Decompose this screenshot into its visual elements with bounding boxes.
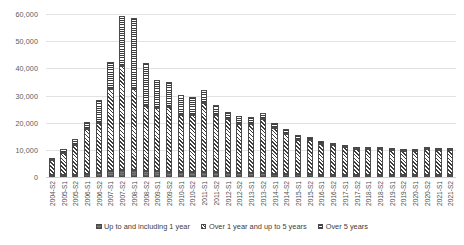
x-axis-tick: 2012-S2 [234, 179, 246, 217]
bar-segment-series-2 [119, 66, 125, 170]
x-axis-tick-label: 2012-S2 [236, 181, 243, 206]
bar-segment-series-1 [236, 173, 242, 177]
bar-column[interactable] [421, 14, 433, 177]
bar-segment-series-2 [178, 115, 184, 172]
bar-segment-series-2 [365, 149, 371, 175]
bar-column[interactable] [245, 14, 257, 177]
bar-column[interactable] [257, 14, 269, 177]
bar-segment-series-2 [435, 150, 441, 175]
bar-stack [213, 105, 219, 177]
bar-column[interactable] [105, 14, 117, 177]
bar-stack [318, 141, 324, 177]
bar-stack [225, 112, 231, 177]
bar-segment-series-1 [283, 174, 289, 177]
bar-segment-series-1 [189, 172, 195, 177]
bar-stack [307, 137, 313, 177]
x-axis-tick-label: 2019-S1 [388, 181, 395, 206]
y-axis-tick-label: 50,000 [15, 37, 38, 46]
bar-segment-series-1 [260, 173, 266, 177]
x-axis-tick-label: 2007-S2 [119, 181, 126, 206]
bar-series-container [46, 14, 456, 177]
bar-stack [178, 95, 184, 177]
bar-column[interactable] [433, 14, 445, 177]
bar-column[interactable] [398, 14, 410, 177]
x-axis-tick-label: 2010-S1 [177, 181, 184, 206]
legend-item[interactable]: Over 5 years [318, 222, 368, 231]
bar-column[interactable] [327, 14, 339, 177]
bar-column[interactable] [339, 14, 351, 177]
bar-column[interactable] [386, 14, 398, 177]
bar-segment-series-1 [353, 175, 359, 177]
bar-stack [143, 63, 149, 177]
bar-stack [400, 149, 406, 177]
bar-column[interactable] [187, 14, 199, 177]
bar-segment-series-1 [271, 174, 277, 177]
bar-segment-series-2 [72, 145, 78, 175]
bar-column[interactable] [58, 14, 70, 177]
x-axis-tick: 2015-S1 [292, 179, 304, 217]
bar-column[interactable] [292, 14, 304, 177]
bar-segment-series-2 [412, 151, 418, 175]
bar-segment-series-3 [166, 82, 172, 108]
bar-segment-series-1 [424, 175, 430, 177]
bar-stack [435, 148, 441, 177]
x-axis-tick: 2018-S2 [374, 179, 386, 217]
bar-column[interactable] [351, 14, 363, 177]
bar-column[interactable] [222, 14, 234, 177]
x-axis-labels: 2004-S22005-S12005-S22006-S12006-S22007-… [46, 179, 456, 217]
bar-column[interactable] [163, 14, 175, 177]
x-axis-tick: 2007-S1 [105, 179, 117, 217]
bar-column[interactable] [210, 14, 222, 177]
bar-column[interactable] [151, 14, 163, 177]
x-axis-tick: 2021-S2 [444, 179, 456, 217]
x-axis-tick-label: 2016-S2 [330, 181, 337, 206]
bar-segment-series-2 [96, 123, 102, 173]
bar-segment-series-1 [84, 174, 90, 177]
bar-segment-series-2 [271, 128, 277, 173]
bar-column[interactable] [128, 14, 140, 177]
bar-segment-series-2 [400, 151, 406, 175]
bar-segment-series-1 [435, 175, 441, 177]
bar-segment-series-1 [96, 173, 102, 177]
bar-column[interactable] [116, 14, 128, 177]
bar-column[interactable] [234, 14, 246, 177]
bar-column[interactable] [198, 14, 210, 177]
bar-segment-series-1 [389, 175, 395, 177]
bar-column[interactable] [175, 14, 187, 177]
bar-segment-series-1 [318, 175, 324, 177]
bar-column[interactable] [69, 14, 81, 177]
legend-item[interactable]: Over 1 year and up to 5 years [201, 222, 307, 231]
bar-column[interactable] [374, 14, 386, 177]
bar-column[interactable] [362, 14, 374, 177]
bar-segment-series-2 [131, 89, 137, 170]
x-axis-tick-label: 2021-S1 [435, 181, 442, 206]
x-axis-tick-label: 2015-S1 [294, 181, 301, 206]
bar-segment-series-2 [49, 160, 55, 175]
bar-stack [377, 147, 383, 177]
bar-column[interactable] [316, 14, 328, 177]
bar-column[interactable] [269, 14, 281, 177]
y-axis-tick-label: 40,000 [15, 64, 38, 73]
bar-segment-series-2 [60, 153, 66, 175]
bar-column[interactable] [93, 14, 105, 177]
bar-segment-series-2 [107, 89, 113, 171]
x-axis-tick: 2010-S2 [187, 179, 199, 217]
x-axis-tick-label: 2017-S1 [341, 181, 348, 206]
bar-column[interactable] [46, 14, 58, 177]
bar-stack [60, 149, 66, 177]
bar-column[interactable] [304, 14, 316, 177]
bar-stack [107, 62, 113, 177]
x-axis-tick: 2012-S1 [222, 179, 234, 217]
bar-column[interactable] [409, 14, 421, 177]
bar-column[interactable] [444, 14, 456, 177]
x-axis-tick: 2005-S1 [58, 179, 70, 217]
bar-column[interactable] [140, 14, 152, 177]
bar-segment-series-1 [49, 175, 55, 177]
bar-segment-series-3 [213, 105, 219, 115]
legend-item[interactable]: Up to and including 1 year [96, 222, 190, 231]
bar-segment-series-1 [447, 175, 453, 177]
x-axis-tick-label: 2006-S2 [95, 181, 102, 206]
bar-segment-series-3 [84, 122, 90, 129]
bar-column[interactable] [280, 14, 292, 177]
bar-column[interactable] [81, 14, 93, 177]
